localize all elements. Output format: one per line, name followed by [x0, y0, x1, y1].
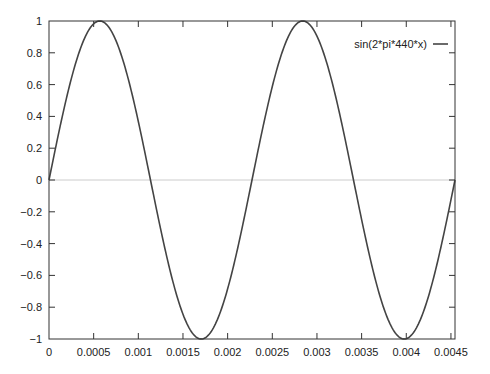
y-tick-label: −0.8: [20, 301, 42, 313]
x-tick-label: 0.002: [214, 346, 242, 358]
y-tick-label: −1: [29, 333, 42, 345]
x-tick-label: 0.0035: [345, 346, 379, 358]
x-axis-tick-labels: 00.00050.0010.00150.0020.00250.0030.0035…: [46, 346, 468, 358]
y-tick-label: 0: [36, 174, 42, 186]
x-tick-label: 0.003: [303, 346, 331, 358]
y-tick-label: 0.8: [27, 47, 42, 59]
y-tick-label: 0.6: [27, 79, 42, 91]
y-tick-label: −0.4: [20, 238, 42, 250]
x-tick-label: 0.0045: [434, 346, 468, 358]
legend-label: sin(2*pi*440*x): [354, 38, 427, 50]
x-tick-label: 0.0025: [255, 346, 289, 358]
x-tick-label: 0.0005: [77, 346, 111, 358]
y-tick-label: −0.2: [20, 206, 42, 218]
x-tick-label: 0.0015: [166, 346, 200, 358]
y-axis-tick-labels: 10.80.60.40.20−0.2−0.4−0.6−0.8−1: [20, 15, 42, 345]
x-tick-label: 0: [46, 346, 52, 358]
y-tick-label: 0.4: [27, 110, 42, 122]
legend: sin(2*pi*440*x): [354, 38, 448, 50]
y-tick-label: 1: [36, 15, 42, 27]
y-tick-label: 0.2: [27, 142, 42, 154]
x-tick-label: 0.001: [125, 346, 153, 358]
plot-area: 00.00050.0010.00150.0020.00250.0030.0035…: [0, 0, 490, 374]
x-tick-label: 0.004: [393, 346, 421, 358]
y-tick-label: −0.6: [20, 269, 42, 281]
chart-container: 00.00050.0010.00150.0020.00250.0030.0035…: [0, 0, 490, 374]
